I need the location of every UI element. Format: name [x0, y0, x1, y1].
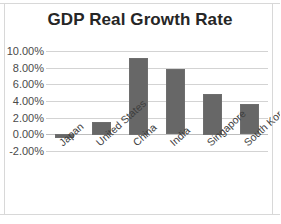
x-axis-category-label: India — [168, 125, 192, 148]
x-axis-category-label: Singapore — [205, 108, 248, 148]
chart-screenshot: GDP Real Growth Rate 10.00%8.00%6.00%4.0… — [0, 0, 280, 224]
x-axis-category-label: South Korea — [242, 101, 281, 148]
x-axis-category-label: China — [131, 122, 159, 149]
x-axis-category-label: Japan — [57, 121, 86, 148]
x-axis-category-labels: JapanUnited StatesChinaIndiaSingaporeSou… — [0, 0, 280, 224]
